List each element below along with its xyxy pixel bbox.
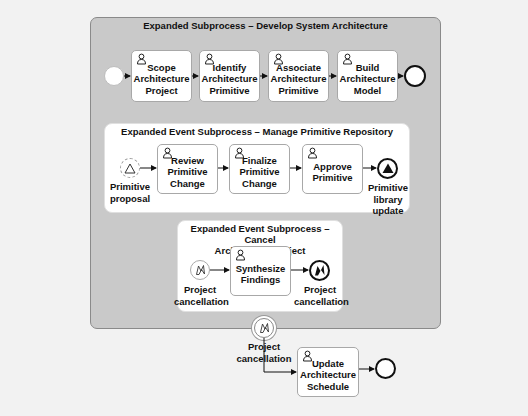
signal-end-label: Primitivelibraryupdate [362, 182, 414, 217]
task-label: AssociateArchitecturePrimitive [271, 62, 327, 97]
task-label: FinalizePrimitiveChange [239, 155, 279, 190]
error-end-event[interactable] [309, 260, 330, 281]
filled-triangle-signal-icon [382, 163, 394, 174]
error-start-event[interactable] [190, 260, 210, 280]
task-build-architecture-model[interactable]: BuildArchitectureModel [337, 50, 398, 102]
error-start-label: Projectcancellation [174, 284, 226, 307]
signal-start-label: Primitiveproposal [104, 181, 156, 204]
user-icon [307, 147, 318, 159]
task-identify-architecture-primitive[interactable]: IdentifyArchitecturePrimitive [199, 50, 260, 102]
user-icon [162, 147, 173, 159]
boundary-event-label: Projectcancellation [236, 341, 292, 364]
error-end-label: Projectcancellation [294, 284, 346, 307]
task-scope-architecture-project[interactable]: ScopeArchitectureProject [131, 50, 192, 102]
task-label: BuildArchitectureModel [340, 62, 396, 97]
signal-end-event[interactable] [377, 158, 398, 179]
task-synthesize-findings[interactable]: SynthesizeFindings [230, 246, 291, 296]
task-finalize-primitive-change[interactable]: FinalizePrimitiveChange [229, 144, 290, 194]
lightning-error-icon [195, 264, 206, 276]
user-icon [235, 249, 246, 261]
task-associate-architecture-primitive[interactable]: AssociateArchitecturePrimitive [268, 50, 329, 102]
user-icon [342, 53, 353, 65]
user-icon [204, 53, 215, 65]
end-event[interactable] [404, 65, 426, 87]
task-label: IdentifyArchitecturePrimitive [202, 62, 258, 97]
task-label: SynthesizeFindings [236, 263, 286, 286]
task-label: ReviewPrimitiveChange [167, 155, 207, 190]
user-icon [273, 53, 284, 65]
triangle-signal-icon [124, 163, 136, 174]
lightning-error-icon [259, 322, 270, 334]
user-icon [302, 350, 313, 362]
start-event[interactable] [104, 66, 124, 86]
filled-lightning-error-icon [314, 264, 326, 277]
task-approve-primitive[interactable]: ApprovePrimitive [302, 144, 363, 194]
task-label: UpdateArchitectureSchedule [300, 358, 356, 393]
event-subprocess-title: Expanded Event Subprocess – Manage Primi… [104, 126, 410, 137]
final-end-event[interactable] [375, 358, 396, 379]
task-label: ApprovePrimitive [312, 161, 352, 184]
task-update-architecture-schedule[interactable]: UpdateArchitectureSchedule [297, 347, 359, 397]
error-boundary-event[interactable] [254, 318, 274, 338]
user-icon [234, 147, 245, 159]
user-icon [136, 53, 147, 65]
signal-start-event[interactable] [120, 158, 140, 178]
task-label: ScopeArchitectureProject [134, 62, 190, 97]
subprocess-title: Expanded Subprocess – Develop System Arc… [90, 20, 441, 31]
task-review-primitive-change[interactable]: ReviewPrimitiveChange [157, 144, 218, 194]
